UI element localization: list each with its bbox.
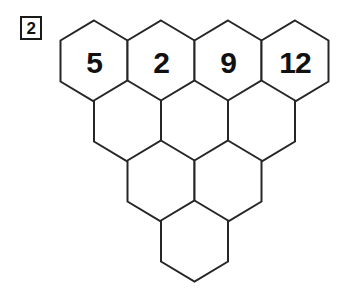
hexagon-cell-value: 12 [279, 46, 311, 79]
hexagon-cell-value: 2 [153, 46, 169, 79]
hexagon-pyramid-grid: 52912 [0, 0, 348, 296]
hexagon-cell-value: 5 [86, 46, 102, 79]
puzzle-canvas: 2 52912 [0, 0, 348, 296]
hexagon-cell-value: 9 [220, 46, 236, 79]
